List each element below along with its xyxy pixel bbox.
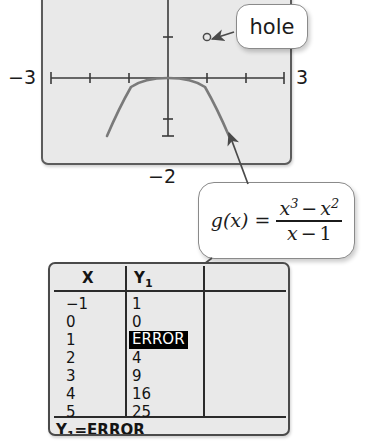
figure-root: −3 3 −2 hole g(x) = x3−x2 x−1 <box>0 0 367 441</box>
numerator-operator: − <box>301 197 317 219</box>
table-header-x: X <box>82 269 94 287</box>
table-cell-y1-5: 16 <box>132 387 151 402</box>
status-prefix: Y <box>56 421 67 436</box>
table-cell-y1-3: 4 <box>132 351 142 366</box>
table-cell-x-4: 3 <box>66 369 76 384</box>
table-cell-x-0: −1 <box>66 297 88 312</box>
axis-label-xmin: −3 <box>8 66 36 88</box>
table-cell-x-6: 5 <box>66 405 76 420</box>
table-cell-y1-6: 25 <box>132 405 151 420</box>
table-cell-x-5: 4 <box>66 387 76 402</box>
table-header-rule <box>54 290 286 292</box>
table-cell-x-1: 0 <box>66 315 76 330</box>
status-value: =ERROR <box>75 421 145 436</box>
table-cell-y1-0: 1 <box>132 297 142 312</box>
table-cell-x-2: 1 <box>66 333 76 348</box>
table-column-divider-1 <box>125 266 127 416</box>
hole-marker <box>203 33 210 40</box>
formula-numerator: x3−x2 <box>276 197 342 220</box>
formula-denominator: x−1 <box>284 222 335 244</box>
numerator-term1-base: x <box>279 197 290 219</box>
denominator-term2: 1 <box>320 222 332 244</box>
function-definition: g(x) = x3−x2 x−1 <box>211 197 342 244</box>
table-screen: X Y1 −1 0 1 2 3 4 5 1 0 ERROR 4 9 16 25 … <box>48 262 290 436</box>
table-cell-x-3: 2 <box>66 351 76 366</box>
table-header-y1-subscript: 1 <box>145 277 153 290</box>
status-subscript: 1 <box>67 429 75 436</box>
formula-fraction: x3−x2 x−1 <box>276 197 342 244</box>
formula-lhs: g(x) <box>211 209 249 231</box>
table-cell-y1-2-error: ERROR <box>129 331 188 349</box>
table-status-line: Y1=ERROR <box>56 421 145 436</box>
table-header-y1: Y1 <box>134 269 153 290</box>
table-footer-rule <box>54 416 286 418</box>
numerator-term2-base: x <box>320 197 331 219</box>
table-header-y1-text: Y <box>134 269 145 287</box>
denominator-operator: − <box>301 222 317 244</box>
table-column-divider-2 <box>203 266 205 416</box>
table-grid: X Y1 −1 0 1 2 3 4 5 1 0 ERROR 4 9 16 25 … <box>50 264 288 434</box>
table-cell-y1-4: 9 <box>132 369 142 384</box>
axis-label-ymin: −2 <box>148 165 176 187</box>
formula-equals: = <box>254 209 270 231</box>
callout-hole-label: hole <box>250 15 295 39</box>
numerator-term1-exponent: 3 <box>290 196 298 211</box>
table-cell-y1-1: 0 <box>132 315 142 330</box>
callout-formula: g(x) = x3−x2 x−1 <box>198 182 355 259</box>
callout-hole: hole <box>236 4 308 49</box>
axis-label-xmax: 3 <box>296 66 308 88</box>
numerator-term2-exponent: 2 <box>331 196 339 211</box>
denominator-term1: x <box>287 222 298 244</box>
